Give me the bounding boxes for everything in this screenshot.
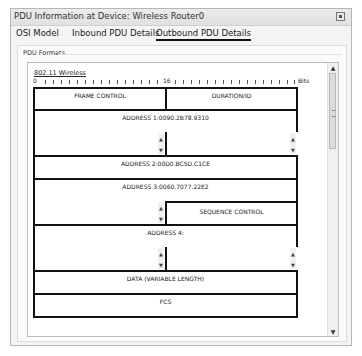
field-address-3: ADDRESS 3:0060.7077.22E2 [33, 178, 298, 203]
field-address-1: ADDRESS 1:0090.2B78.9310 [33, 109, 298, 134]
field-address-4-cont-right: ▲▼ [165, 247, 298, 272]
scroll-thumb[interactable] [329, 73, 336, 149]
field-address-1-cont-left: ▲▼ [33, 132, 167, 157]
vertical-scrollbar[interactable]: ▲ ▼ [327, 63, 338, 336]
field-sequence-control: SEQUENCE CONTROL [165, 201, 298, 226]
title-bar: PDU Information at Device: Wireless Rout… [11, 9, 351, 26]
divider [58, 54, 342, 55]
field-data: DATA (VARIABLE LENGTH) [33, 270, 298, 295]
pdu-information-window: PDU Information at Device: Wireless Rout… [10, 8, 352, 346]
field-frame-control: FRAME CONTROL [33, 87, 167, 111]
field-address-2: ADDRESS 2:00D0.BC5D.C1CE [33, 155, 298, 180]
cell-scrollbar[interactable]: ▲▼ [158, 202, 164, 223]
pdu-formats-label: PDU Formats [23, 49, 65, 57]
tab-inbound-pdu-details[interactable]: Inbound PDU Details [72, 28, 159, 38]
pdu-diagram-viewport: 802.11 Wireless 0 16 Bits FRAME CONTROL … [27, 62, 339, 337]
tab-bar: OSI Model Inbound PDU Details Outbound P… [11, 26, 351, 42]
close-icon[interactable] [336, 12, 345, 21]
cell-scrollbar[interactable]: ▲▼ [290, 133, 296, 154]
scroll-up-arrow[interactable]: ▲ [328, 64, 338, 71]
cell-scrollbar[interactable]: ▲▼ [290, 248, 296, 269]
field-address-4: ADDRESS 4: [33, 224, 298, 249]
field-duration-id: DURATION/ID [165, 87, 298, 111]
field-address-2-cont-right: ▲▼ [165, 132, 298, 157]
bit-ruler: 0 16 [33, 77, 295, 85]
field-fcs: FCS [33, 293, 298, 318]
pdu-formats-panel: PDU Formats 802.11 Wireless 0 16 Bits FR… [17, 45, 347, 342]
tab-osi-model[interactable]: OSI Model [16, 28, 59, 38]
window-title: PDU Information at Device: Wireless Rout… [14, 11, 204, 21]
field-address-4-cont-left: ▲▼ [33, 247, 167, 272]
cell-scrollbar[interactable]: ▲▼ [158, 133, 164, 154]
bits-label: Bits [298, 77, 309, 84]
scroll-down-arrow[interactable]: ▼ [328, 328, 338, 335]
ruler-mid: 16 [163, 77, 171, 84]
field-address-3-cont: ▲▼ [33, 201, 167, 226]
cell-scrollbar[interactable]: ▲▼ [158, 248, 164, 269]
protocol-name: 802.11 Wireless [34, 69, 86, 77]
ruler-start: 0 [33, 77, 37, 84]
tab-outbound-pdu-details[interactable]: Outbound PDU Details [156, 28, 251, 41]
